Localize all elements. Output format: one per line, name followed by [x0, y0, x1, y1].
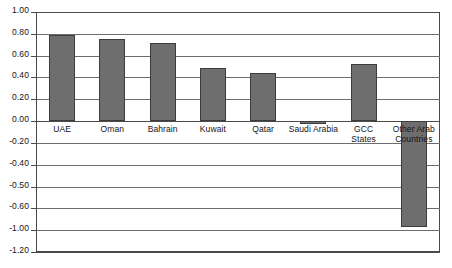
y-axis-tick-label: -1.20 [9, 246, 29, 255]
y-axis-tick-mark [31, 252, 36, 253]
bar[interactable] [99, 39, 125, 121]
x-axis-category-label: Oman [87, 122, 137, 144]
y-axis-tick-mark [31, 208, 36, 209]
bar[interactable] [200, 68, 226, 121]
y-axis-tick-label: 0.00 [12, 115, 29, 124]
x-axis-category-label: Other Arab Countries [389, 122, 439, 144]
y-axis-tick-mark [31, 56, 36, 57]
y-axis-tick-label: 0.40 [12, 71, 29, 80]
gridline [36, 252, 440, 253]
x-axis-category-label: UAE [37, 122, 87, 144]
y-axis-tick-mark [31, 12, 36, 13]
y-axis-tick-label: 0.20 [12, 93, 29, 102]
x-axis-category-label: GCC States [339, 122, 389, 144]
bar-chart: 1.000.800.600.400.200.00-0.20-0.40-0.50-… [0, 0, 452, 268]
bar[interactable] [250, 73, 276, 121]
y-axis-tick-mark [31, 121, 36, 122]
x-axis-category-label: Bahrain [138, 122, 188, 144]
y-axis-tick-label: -0.20 [9, 137, 29, 146]
y-axis-tick-mark [31, 165, 36, 166]
x-axis-category-label: Saudi Arabia [288, 122, 338, 144]
y-axis-tick-label: -0.40 [9, 159, 29, 168]
y-axis-tick-mark [31, 230, 36, 231]
x-axis-category-label: Qatar [238, 122, 288, 144]
y-axis-tick-label: 0.60 [12, 50, 29, 59]
y-axis-tick-label: -1.00 [9, 224, 29, 233]
y-axis-tick-mark [31, 143, 36, 144]
bar[interactable] [351, 64, 377, 121]
y-axis-tick-label: -0.50 [9, 181, 29, 190]
y-axis-tick-mark [31, 34, 36, 35]
y-axis-tick-label: -0.60 [9, 202, 29, 211]
y-axis-tick-label: 1.00 [12, 6, 29, 15]
y-axis-tick-mark [31, 99, 36, 100]
y-axis-tick-mark [31, 187, 36, 188]
x-axis-category-label: Kuwait [188, 122, 238, 144]
y-axis-tick-label: 0.80 [12, 28, 29, 37]
y-axis-tick-mark [31, 77, 36, 78]
x-axis-category-labels: UAEOmanBahrainKuwaitQatarSaudi ArabiaGCC… [37, 122, 439, 144]
bar[interactable] [150, 43, 176, 122]
bar[interactable] [49, 35, 75, 121]
